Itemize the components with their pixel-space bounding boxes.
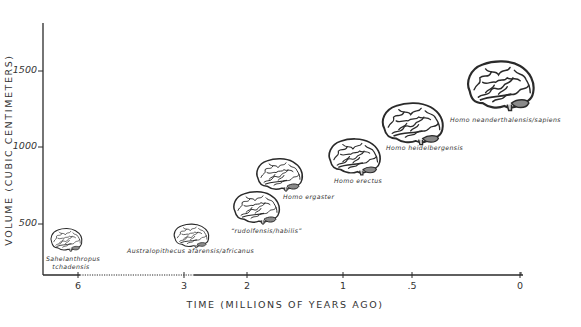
chart-plot-area <box>0 0 581 327</box>
brain-markers <box>51 61 534 251</box>
label-australopithecus: Australopithecus afarensis/africanus <box>127 247 254 254</box>
brain-icon <box>234 192 279 224</box>
brain-icon <box>468 61 533 110</box>
x-axis-label: TIME (MILLIONS OF YEARS AGO) <box>135 299 435 310</box>
y-tick-label-1500: 1500 <box>0 64 37 75</box>
x-tick-label-3: 3 <box>174 280 194 291</box>
brain-icon <box>383 103 443 145</box>
x-tick-label-1: 1 <box>333 280 353 291</box>
label-homo-heidelbergensis: Homo heidelbergensis <box>386 144 463 151</box>
label-homo-neanderthalensis-sapiens: Homo neanderthalensis/sapiens <box>450 116 561 123</box>
label-sahelanthropus-line1: Sahelanthropus <box>46 255 96 262</box>
brain-icon <box>329 139 380 175</box>
brain-volume-chart: VOLUME (CUBIC CENTIMETERS) TIME (MILLION… <box>0 0 581 327</box>
x-tick-label-6: 6 <box>68 280 88 291</box>
label-rudolfensis-habilis: “rudolfensis/habilis” <box>231 227 302 234</box>
label-homo-erectus: Homo erectus <box>334 177 382 184</box>
label-homo-ergaster: Homo ergaster <box>283 193 335 200</box>
x-tick-label-half: .5 <box>402 280 422 291</box>
label-sahelanthropus: Sahelanthropus tchadensis <box>46 255 96 270</box>
brain-icon <box>174 224 209 248</box>
brain-icon <box>51 229 82 252</box>
y-tick-label-500: 500 <box>0 217 37 228</box>
y-tick-marks <box>38 71 43 224</box>
x-tick-label-2: 2 <box>237 280 257 291</box>
brain-icon <box>257 159 302 191</box>
x-tick-label-0: 0 <box>510 280 530 291</box>
y-tick-label-1000: 1000 <box>0 140 37 151</box>
label-sahelanthropus-line2: tchadensis <box>46 263 96 270</box>
